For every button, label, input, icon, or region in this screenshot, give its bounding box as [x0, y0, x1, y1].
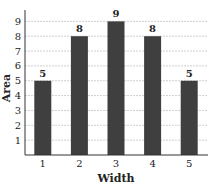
y-tick-labels: 123456789 [15, 16, 21, 146]
y-axis-label: Area [0, 74, 13, 103]
y-tick-label: 1 [15, 135, 21, 146]
bar [108, 21, 125, 155]
bar [144, 36, 161, 155]
bar [34, 81, 51, 155]
x-tick-label: 3 [113, 158, 119, 169]
x-tick-label: 4 [149, 158, 155, 169]
y-tick-label: 3 [15, 105, 21, 116]
bar-value-label: 8 [76, 23, 83, 34]
y-tick-label: 5 [15, 75, 21, 86]
bar-value-label: 8 [149, 23, 156, 34]
x-tick-label: 1 [40, 158, 46, 169]
x-tick-labels: 12345 [40, 158, 193, 169]
x-tick-label: 5 [186, 158, 192, 169]
y-tick-label: 2 [15, 120, 21, 131]
bar [181, 81, 198, 155]
bar-chart: 58985 123456789 12345 Width Area [0, 0, 217, 191]
x-axis-label: Width [96, 172, 134, 185]
y-tick-label: 6 [15, 60, 21, 71]
x-tick-label: 2 [76, 158, 82, 169]
y-tick-label: 9 [15, 16, 21, 27]
y-tick-label: 7 [15, 46, 21, 57]
bar [71, 36, 88, 155]
bar-value-label: 9 [113, 8, 120, 19]
bar-value-label: 5 [39, 68, 46, 79]
bars: 58985 [34, 8, 197, 155]
y-tick-label: 4 [15, 90, 21, 101]
y-tick-label: 8 [15, 31, 21, 42]
bar-value-label: 5 [186, 68, 193, 79]
